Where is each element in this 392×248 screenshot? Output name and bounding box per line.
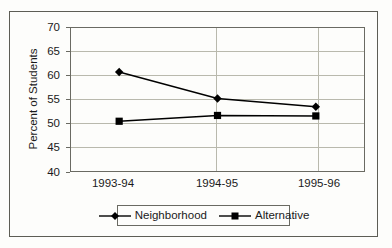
category-gridline-1994-95 bbox=[216, 28, 217, 171]
y-tick-label-55: 55 bbox=[20, 94, 60, 106]
gridline-65 bbox=[71, 51, 364, 52]
y-tick-label-45: 45 bbox=[20, 142, 60, 154]
x-tick-label-1994-95: 1994-95 bbox=[182, 178, 252, 190]
gridline-55 bbox=[71, 99, 364, 100]
legend-entry-alternative[interactable]: Alternative bbox=[218, 210, 309, 222]
x-tick-label-1993-94: 1993-94 bbox=[78, 178, 148, 190]
y-tick-label-60: 60 bbox=[20, 70, 60, 82]
legend-entry-neighborhood[interactable]: Neighborhood bbox=[98, 210, 207, 222]
y-tick-label-70: 70 bbox=[20, 22, 60, 34]
legend-label-neighborhood: Neighborhood bbox=[135, 210, 207, 222]
y-tick-label-50: 50 bbox=[20, 118, 60, 130]
plot-area bbox=[70, 27, 365, 172]
y-tick-mark-40 bbox=[66, 172, 70, 173]
y-tick-label-40: 40 bbox=[20, 167, 60, 179]
diamond-marker-icon bbox=[98, 210, 132, 222]
x-tick-label-1995-96: 1995-96 bbox=[284, 178, 354, 190]
y-tick-label-65: 65 bbox=[20, 46, 60, 58]
gridline-45 bbox=[71, 147, 364, 148]
gridline-50 bbox=[71, 123, 364, 124]
square-marker-icon bbox=[218, 210, 252, 222]
legend-label-alternative: Alternative bbox=[255, 210, 309, 222]
category-gridline-1995-96 bbox=[318, 28, 319, 171]
gridline-60 bbox=[71, 75, 364, 76]
chart-legend: Neighborhood Alternative bbox=[117, 205, 290, 226]
chart-figure: Percent of Students 70 65 60 55 50 45 40… bbox=[0, 0, 392, 248]
